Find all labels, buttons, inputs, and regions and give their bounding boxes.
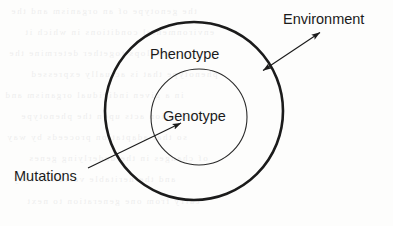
label-mutations: Mutations bbox=[14, 169, 77, 184]
mutations-arrow bbox=[88, 123, 181, 168]
environment-arrow bbox=[263, 33, 320, 71]
label-environment: Environment bbox=[283, 12, 364, 27]
label-phenotype: Phenotype bbox=[150, 47, 219, 62]
diagram-canvas: the genotype of an organism and the envi… bbox=[0, 0, 393, 226]
label-genotype: Genotype bbox=[163, 109, 226, 124]
